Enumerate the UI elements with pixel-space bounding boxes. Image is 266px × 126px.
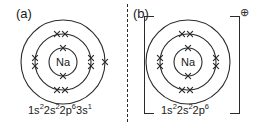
panel-sodium-ion: (b) ⊕ Na [130,0,266,126]
sodium-atom-shell-diagram: Na [0,0,127,104]
config-term: 2p6 [60,104,76,116]
config-term: 2s2 [44,104,60,116]
panel-divider-dashed [127,4,128,122]
config-term: 2s2 [177,104,193,116]
sodium-ion-shell-diagram: Na [130,0,266,104]
config-term: 1s2 [28,104,44,116]
nucleus-label: Na [56,56,71,68]
electron-configuration-b: 1s22s22p6 [161,104,209,116]
config-term: 1s2 [161,104,177,116]
bohr-diagram-figure: (a) Na [0,0,266,126]
config-term: 3s1 [76,104,92,116]
config-term: 2p6 [193,104,209,116]
panel-sodium-atom: (a) Na [0,0,127,126]
electron-configuration-a: 1s22s22p63s1 [28,104,92,116]
nucleus-label: Na [181,56,196,68]
